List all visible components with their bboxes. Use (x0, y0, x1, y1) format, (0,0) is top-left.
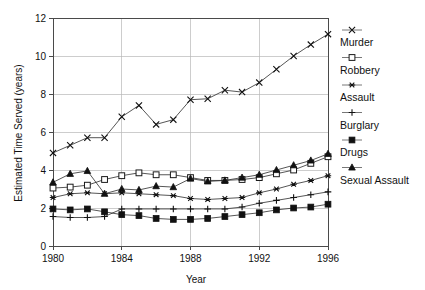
marker-filled-triangle (349, 164, 356, 170)
marker-asterisk (308, 178, 314, 183)
marker-open-square (50, 185, 56, 191)
marker-asterisk (67, 191, 73, 196)
marker-filled-square (349, 137, 355, 143)
marker-plus (170, 206, 177, 213)
marker-asterisk (349, 83, 355, 88)
marker-filled-square (256, 210, 262, 216)
marker-open-square (119, 173, 125, 179)
marker-filled-triangle (118, 185, 125, 191)
marker-plus (136, 206, 143, 213)
marker-plus (256, 200, 263, 207)
marker-open-square (170, 172, 176, 178)
marker-plus (308, 191, 315, 198)
y-tick-label: 2 (40, 203, 46, 214)
y-tick-label: 0 (40, 241, 46, 252)
marker-x-cross (136, 102, 142, 108)
x-tick-label: 1992 (248, 253, 271, 264)
marker-plus (153, 206, 160, 213)
marker-filled-square (239, 212, 245, 218)
marker-plus (325, 189, 332, 196)
tick-marks (49, 18, 328, 250)
marker-filled-triangle (84, 167, 91, 173)
marker-filled-square (188, 217, 194, 223)
line-chart: 024681012 19801984198819921996 MurderRob… (0, 0, 425, 290)
y-tick-label: 8 (40, 89, 46, 100)
marker-plus (50, 213, 57, 220)
y-tick-label: 6 (40, 127, 46, 138)
marker-plus (204, 206, 211, 213)
y-tick-label: 4 (40, 165, 46, 176)
legend-label: Drugs (340, 146, 368, 158)
marker-filled-square (170, 217, 176, 223)
marker-filled-square (119, 212, 125, 218)
marker-filled-square (67, 207, 73, 213)
legend-entry-robbery[interactable]: Robbery (340, 55, 380, 76)
marker-open-square (67, 184, 73, 190)
chart-container: 024681012 19801984198819921996 MurderRob… (0, 0, 425, 290)
marker-asterisk (84, 190, 90, 195)
marker-filled-square (205, 216, 211, 222)
marker-asterisk (204, 197, 210, 202)
marker-open-square (102, 177, 108, 183)
marker-open-square (349, 55, 355, 61)
x-axis-title: Year (186, 274, 207, 285)
x-tick-label: 1984 (111, 253, 134, 264)
marker-plus (349, 109, 356, 116)
marker-plus (84, 214, 91, 221)
marker-x-cross (273, 66, 279, 72)
marker-asterisk (153, 192, 159, 197)
legend-entry-sexual-assault[interactable]: Sexual Assault (340, 164, 409, 186)
legend-label: Murder (340, 36, 374, 48)
marker-x-cross (170, 117, 176, 123)
marker-filled-square (84, 206, 90, 212)
marker-filled-triangle (50, 179, 57, 185)
x-tick-label: 1996 (317, 253, 340, 264)
marker-open-square (153, 172, 159, 178)
marker-x-cross (67, 142, 73, 148)
x-axis-tick-labels: 19801984198819921996 (42, 253, 340, 264)
legend-entry-murder[interactable]: Murder (340, 27, 374, 48)
y-axis-tick-labels: 024681012 (35, 13, 47, 252)
legend-label: Robbery (340, 64, 380, 76)
marker-asterisk (273, 187, 279, 192)
legend-label: Burglary (340, 119, 380, 131)
marker-filled-triangle (153, 183, 160, 189)
marker-filled-square (308, 204, 314, 210)
marker-asterisk (239, 195, 245, 200)
y-tick-label: 12 (35, 13, 47, 24)
x-tick-label: 1988 (179, 253, 202, 264)
marker-plus (222, 206, 229, 213)
legend-entry-assault[interactable]: Assault (340, 83, 375, 103)
marker-plus (118, 206, 125, 213)
marker-open-square (84, 182, 90, 188)
marker-filled-square (136, 213, 142, 219)
marker-asterisk (170, 193, 176, 198)
marker-asterisk (222, 196, 228, 201)
legend-entry-burglary[interactable]: Burglary (340, 109, 380, 130)
marker-plus (187, 206, 194, 213)
marker-plus (290, 194, 297, 201)
marker-x-cross (153, 121, 159, 127)
marker-asterisk (290, 182, 296, 187)
legend-entry-drugs[interactable]: Drugs (340, 137, 368, 158)
marker-filled-square (325, 201, 331, 207)
marker-filled-square (50, 206, 56, 212)
y-axis-title: Estimated Time Served (years) (13, 64, 24, 201)
marker-plus (239, 204, 246, 211)
marker-filled-square (291, 205, 297, 211)
marker-filled-square (222, 214, 228, 220)
marker-plus (67, 214, 74, 221)
y-tick-label: 10 (35, 51, 47, 62)
marker-filled-square (274, 207, 280, 213)
marker-x-cross (308, 42, 314, 48)
marker-open-square (136, 170, 142, 176)
legend: MurderRobberyAssaultBurglaryDrugsSexual … (340, 27, 409, 186)
x-tick-label: 1980 (42, 253, 65, 264)
marker-plus (273, 197, 280, 204)
marker-filled-square (102, 209, 108, 215)
legend-label: Assault (340, 91, 375, 103)
legend-label: Sexual Assault (340, 174, 409, 186)
marker-filled-square (153, 216, 159, 222)
